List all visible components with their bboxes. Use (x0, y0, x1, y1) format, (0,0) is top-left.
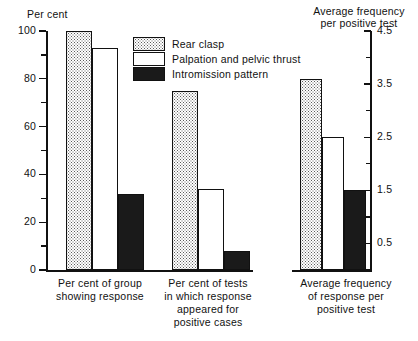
right-panel-baseline (292, 270, 372, 272)
left-axis-tick-label: 80 (24, 72, 36, 84)
legend-item: Rear clasp (133, 36, 301, 51)
left-axis-tick-major (39, 78, 46, 79)
left-axis-tick-major (39, 222, 46, 223)
left-axis-tick-label: 40 (24, 167, 36, 179)
bar-white (198, 189, 224, 270)
right-axis-tick-label: 2.5 (377, 130, 392, 142)
bar-black (224, 251, 250, 270)
legend-item-label: Intromission pattern (172, 68, 268, 80)
left-axis-tick-major (39, 269, 46, 270)
category-label-group-2: Average frequency of response per positi… (286, 277, 406, 316)
legend-swatch-white-icon (133, 52, 165, 66)
legend-item: Intromission pattern (133, 66, 301, 81)
frequency-panel-bars (292, 31, 372, 270)
left-axis-tick-label: 60 (24, 120, 36, 132)
left-axis-title: Per cent (27, 8, 68, 20)
left-panel-baseline (46, 270, 253, 272)
bar-stipple (300, 79, 322, 270)
left-axis-tick-label: 0 (30, 263, 36, 275)
right-axis-tick-label: 1.5 (377, 183, 392, 195)
left-axis-tick-major (39, 174, 46, 175)
legend-item: Palpation and pelvic thrust (133, 51, 301, 66)
legend-item-label: Rear clasp (172, 38, 224, 50)
right-axis-title: Average frequency per positive test (300, 5, 418, 29)
right-axis-tick-label: 0.5 (377, 236, 392, 248)
legend-swatch-stipple-icon (133, 37, 165, 51)
left-axis-tick-major (39, 30, 46, 31)
bar-black (118, 194, 144, 270)
bar-white (322, 137, 344, 270)
bar-black (344, 190, 366, 270)
chart-legend: Rear claspPalpation and pelvic thrustInt… (133, 36, 301, 81)
left-axis-tick-major (39, 126, 46, 127)
legend-item-label: Palpation and pelvic thrust (172, 53, 301, 65)
bar-white (92, 48, 118, 270)
bar-stipple (66, 31, 92, 270)
right-axis-tick-label: 3.5 (377, 77, 392, 89)
category-label-group-0: Per cent of group showing response (42, 277, 158, 303)
category-label-group-1: Per cent of tests in which response appe… (150, 277, 266, 329)
left-axis-tick-label: 100 (18, 24, 36, 36)
right-axis-tick-label: 4.5 (377, 24, 392, 36)
bar-stipple (172, 91, 198, 270)
left-axis-tick-label: 20 (24, 215, 36, 227)
bar-chart-figure: Per cent 020406080100 Average frequency … (0, 0, 418, 341)
legend-swatch-black-icon (133, 67, 165, 81)
